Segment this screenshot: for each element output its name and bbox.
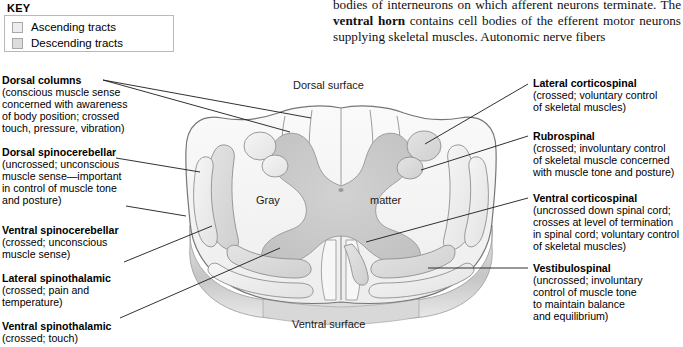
callout-head: Ventral corticospinal [533, 192, 683, 204]
gray-matter-label-right: matter [370, 194, 401, 206]
callout-desc-line: (uncrossed down spinal cord; [533, 204, 683, 216]
callout-desc-line: temperature) [2, 296, 136, 308]
callout-head: Ventral spinocerebellar [2, 224, 136, 236]
key-title: KEY [7, 2, 176, 14]
callout-desc-line: (crossed; pain and [2, 284, 136, 296]
callout-dorsal-spinocerebellar: Dorsal spinocerebellar (uncrossed; uncon… [2, 146, 136, 206]
callout-desc-line: of skeletal muscles) [533, 101, 681, 113]
callout-desc-line: with muscle tone and posture) [533, 166, 683, 178]
callout-ventral-corticospinal: Ventral corticospinal (uncrossed down sp… [533, 192, 683, 252]
body-line-2-post: contains cell bodies of the efferent mot… [405, 13, 634, 28]
callout-head: Ventral spinothalamic [2, 320, 136, 332]
callout-head: Vestibulospinal [533, 262, 683, 274]
callout-desc-line: of skeletal muscle concerned [533, 154, 683, 166]
callout-desc-line: to maintain balance [533, 298, 683, 310]
callout-desc-line: (crossed; unconscious [2, 236, 136, 248]
callout-desc-line: muscle sense—important [2, 170, 136, 182]
ventral-horn-term: ventral horn [333, 13, 405, 28]
callout-desc-line: (conscious muscle sense [2, 86, 134, 98]
callout-desc-line: and equilibrium) [533, 310, 683, 322]
key-item-descending: Descending tracts [12, 36, 173, 50]
callout-lateral-spinothalamic: Lateral spinothalamic (crossed; pain and… [2, 272, 136, 308]
callout-desc-line: concerned with awareness [2, 98, 134, 110]
callout-desc-line: crosses at level of termination [533, 216, 683, 228]
key-item-ascending: Ascending tracts [12, 20, 173, 34]
callout-dorsal-columns: Dorsal columns (conscious muscle sense c… [2, 74, 134, 134]
callout-desc-line: (uncrossed; involuntary [533, 274, 683, 286]
callout-desc-line: touch, pressure, vibration) [2, 122, 134, 134]
body-line-1: bodies of interneurons on which afferent… [333, 0, 656, 12]
callout-desc-line: (crossed; touch) [2, 332, 136, 344]
ventral-surface-label: Ventral surface [292, 318, 365, 330]
callout-desc-line: (uncrossed; unconscious [2, 158, 136, 170]
callout-desc-line: control of muscle tone [533, 286, 683, 298]
key-frame: Ascending tracts Descending tracts [4, 15, 174, 52]
callout-desc-line: (crossed; voluntary control [533, 89, 681, 101]
gray-matter-label-left: Gray [256, 194, 280, 206]
descending-tracts-label: Descending tracts [31, 37, 123, 49]
descending-tracts-swatch [12, 38, 23, 49]
callout-head: Dorsal columns [2, 74, 134, 86]
callout-lateral-corticospinal: Lateral corticospinal (crossed; voluntar… [533, 77, 681, 113]
callout-head: Lateral spinothalamic [2, 272, 136, 284]
callout-head: Rubrospinal [533, 130, 683, 142]
ascending-tracts-swatch [12, 22, 23, 33]
callout-desc-line: and posture) [2, 194, 136, 206]
body-paragraph: bodies of interneurons on which afferent… [333, 0, 681, 45]
callout-head: Dorsal spinocerebellar [2, 146, 136, 158]
callout-desc-line: in control of muscle tone [2, 182, 136, 194]
callout-rubrospinal: Rubrospinal (crossed; involuntary contro… [533, 130, 683, 178]
dorsal-surface-label: Dorsal surface [293, 79, 364, 91]
callout-desc-line: in spinal cord; voluntary control [533, 228, 683, 240]
callout-vestibulospinal: Vestibulospinal (uncrossed; involuntary … [533, 262, 683, 322]
callout-head: Lateral corticospinal [533, 77, 681, 89]
callout-ventral-spinocerebellar: Ventral spinocerebellar (crossed; uncons… [2, 224, 136, 260]
callout-ventral-spinothalamic: Ventral spinothalamic (crossed; touch) [2, 320, 136, 344]
callout-desc-line: of body position; crossed [2, 110, 134, 122]
ascending-tracts-label: Ascending tracts [31, 21, 116, 33]
key-legend: KEY Ascending tracts Descending tracts [4, 2, 176, 54]
callout-desc-line: of skeletal muscles) [533, 240, 683, 252]
callout-desc-line: (crossed; involuntary control [533, 142, 683, 154]
callout-desc-line: muscle sense) [2, 248, 136, 260]
body-line-2-pre: The [660, 0, 681, 12]
